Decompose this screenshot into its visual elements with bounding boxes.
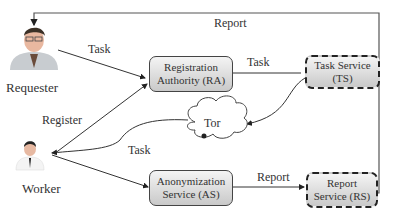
ts-line2: (TS): [332, 72, 352, 85]
ts-tor-arrow: [247, 78, 305, 124]
requester-person-icon: [10, 28, 58, 70]
requester-label: Requester: [6, 80, 58, 96]
ra-line2: Authority (RA): [157, 74, 225, 87]
worker-person-icon: [16, 141, 44, 170]
worker-label: Worker: [22, 181, 61, 197]
anonymization-service-node: Anonymization Service (AS): [149, 170, 233, 206]
ra-line1: Registration: [164, 61, 218, 74]
report-service-node: Report Service (RS): [306, 172, 378, 208]
edge-label-register: Register: [42, 113, 82, 128]
edge-label-report-loop: Report: [214, 16, 247, 31]
edge-label-ra-ts-task: Task: [247, 55, 270, 70]
worker-as-arrow: [52, 155, 148, 187]
rs-line1: Report: [327, 177, 357, 190]
tor-label: Tor: [204, 116, 221, 131]
registration-authority-node: Registration Authority (RA): [149, 56, 233, 92]
ts-line1: Task Service: [314, 59, 370, 72]
task-service-node: Task Service (TS): [305, 55, 380, 89]
rs-line2: Service (RS): [314, 190, 371, 203]
edge-label-tor-task: Task: [128, 143, 151, 158]
as-line1: Anonymization: [157, 175, 225, 188]
edge-label-requester-task: Task: [88, 42, 111, 57]
as-line2: Service (AS): [162, 188, 219, 201]
edge-label-as-rs-report: Report: [257, 170, 290, 185]
